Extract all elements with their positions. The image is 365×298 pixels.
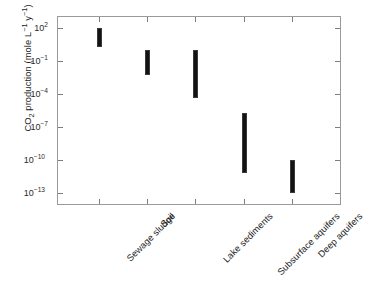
y-tick-major-right	[335, 160, 340, 161]
range-bar-sewage-sludge	[97, 28, 102, 47]
y-tick-major-right	[335, 94, 340, 95]
range-bar-deep-aquifers	[290, 160, 295, 193]
x-tick	[195, 199, 196, 204]
y-tick-label-2: 10−4	[14, 87, 48, 99]
y-tick-label-0: 102	[14, 21, 48, 33]
y-tick-major	[58, 193, 63, 194]
y-tick-major-right	[335, 28, 340, 29]
x-tick	[244, 199, 245, 204]
plot-area	[57, 16, 341, 205]
x-tick	[99, 199, 100, 204]
y-tick-major-right	[335, 193, 340, 194]
y-tick-major-right	[335, 61, 340, 62]
x-tick-top	[244, 17, 245, 22]
y-tick-major	[58, 61, 63, 62]
y-tick-major	[58, 160, 63, 161]
range-bar-lake-sediments	[193, 50, 198, 98]
y-tick-major-right	[335, 127, 340, 128]
y-tick-label-1: 10−1	[14, 54, 48, 66]
y-tick-major	[58, 28, 63, 29]
x-tick	[147, 199, 148, 204]
x-tick-top	[195, 17, 196, 22]
y-tick-major	[58, 94, 63, 95]
range-bar-subsurface-aquifers	[242, 113, 247, 174]
y-tick-major	[58, 127, 63, 128]
x-tick-top	[99, 17, 100, 22]
range-bar-soil	[145, 50, 150, 75]
y-tick-label-3: 10−7	[14, 120, 48, 132]
x-tick-label-lake-sediments: Lake sediments	[221, 211, 275, 265]
x-tick-top	[292, 17, 293, 22]
x-tick	[292, 199, 293, 204]
y-tick-label-4: 10−10	[11, 153, 45, 165]
y-tick-label-5: 10−13	[11, 186, 45, 198]
x-tick-top	[147, 17, 148, 22]
